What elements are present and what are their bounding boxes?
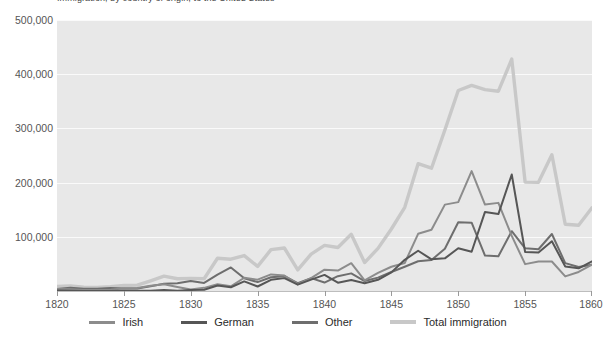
x-tick-label-1860: 1860 xyxy=(579,298,602,310)
legend-swatch-german xyxy=(181,321,207,324)
legend-item-irish[interactable]: Irish xyxy=(89,316,143,328)
x-tick-mark-1840 xyxy=(325,291,326,296)
legend-label-other: Other xyxy=(325,316,353,328)
x-axis: 182018251830183518401845185018551860 xyxy=(57,291,592,315)
x-tick-mark-1860 xyxy=(591,291,592,296)
legend-item-other[interactable]: Other xyxy=(292,316,353,328)
legend-label-irish: Irish xyxy=(122,316,143,328)
y-axis: 100,000200,000300,000400,000500,000 xyxy=(0,20,53,291)
x-tick-label-1850: 1850 xyxy=(447,298,470,310)
legend-swatch-other xyxy=(292,321,318,324)
y-tick-label-200000: 200,000 xyxy=(1,177,53,189)
x-tick-mark-1820 xyxy=(57,291,58,296)
legend-swatch-irish xyxy=(89,321,115,324)
series-line-total-immigration xyxy=(57,59,592,287)
series-line-other xyxy=(57,222,592,289)
x-tick-label-1830: 1830 xyxy=(179,298,202,310)
x-tick-mark-1830 xyxy=(191,291,192,296)
y-tick-label-500000: 500,000 xyxy=(1,14,53,26)
series-layer xyxy=(57,20,592,291)
legend-item-total-immigration[interactable]: Total immigration xyxy=(390,316,506,328)
legend-label-total-immigration: Total immigration xyxy=(423,316,506,328)
plot-area xyxy=(57,20,592,291)
y-tick-label-400000: 400,000 xyxy=(1,68,53,80)
x-tick-mark-1835 xyxy=(258,291,259,296)
legend-item-german[interactable]: German xyxy=(181,316,254,328)
y-tick-label-100000: 100,000 xyxy=(1,231,53,243)
chart-legend: IrishGermanOtherTotal immigration xyxy=(0,316,596,328)
legend-label-german: German xyxy=(214,316,254,328)
x-tick-mark-1825 xyxy=(124,291,125,296)
y-tick-label-300000: 300,000 xyxy=(1,122,53,134)
x-tick-mark-1845 xyxy=(391,291,392,296)
x-tick-mark-1855 xyxy=(525,291,526,296)
x-tick-label-1820: 1820 xyxy=(45,298,68,310)
chart-title: Immigration, by country of origin, to th… xyxy=(57,0,275,3)
legend-swatch-total xyxy=(390,320,416,324)
x-tick-mark-1850 xyxy=(458,291,459,296)
x-tick-label-1840: 1840 xyxy=(313,298,336,310)
x-tick-label-1845: 1845 xyxy=(380,298,403,310)
x-tick-label-1825: 1825 xyxy=(112,298,135,310)
x-tick-label-1835: 1835 xyxy=(246,298,269,310)
x-tick-label-1855: 1855 xyxy=(513,298,536,310)
